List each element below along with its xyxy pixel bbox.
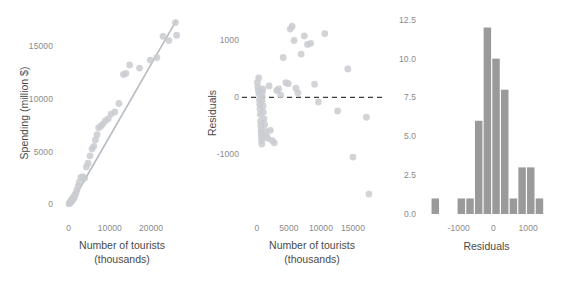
histogram-bar — [492, 59, 499, 214]
data-point — [277, 92, 284, 99]
histogram-bar — [475, 121, 482, 214]
data-points-residuals — [254, 23, 372, 198]
x-axis-title-spending: Number of tourists — [79, 239, 165, 251]
x-tick-label-0: 0 — [255, 223, 260, 233]
y-tick-label-0: 0 — [48, 199, 53, 209]
data-point — [321, 30, 328, 37]
data-point — [85, 160, 92, 167]
data-point — [136, 65, 143, 72]
data-point — [298, 51, 305, 58]
x-tick-label-3: 15000 — [341, 223, 365, 233]
data-point — [311, 81, 318, 88]
x-tick-label-0: 0 — [66, 223, 71, 233]
x-tick-label-2: 20000 — [139, 223, 163, 233]
y-tick-label-2: 5.0 — [404, 131, 416, 141]
data-point — [267, 127, 274, 134]
y-tick-label-1: 0 — [234, 92, 239, 102]
data-point — [280, 54, 287, 61]
histogram-bar — [510, 198, 517, 214]
data-point — [315, 99, 322, 106]
y-tick-label-3: 15000 — [29, 41, 53, 51]
data-point — [81, 175, 88, 182]
y-tick-label-2: 1000 — [220, 35, 239, 45]
y-tick-label-5: 12.5 — [399, 15, 416, 25]
x-tick-label-1: 5000 — [279, 223, 298, 233]
panel-residual-scatter: 050001000015000-100001000 Number of tour… — [190, 0, 390, 282]
y-tick-label-1: 2.5 — [404, 170, 416, 180]
data-point — [260, 109, 267, 116]
data-point — [289, 23, 296, 30]
histogram-bars — [432, 28, 544, 214]
data-point — [266, 83, 273, 90]
data-point — [350, 154, 357, 161]
y-axis-title-residuals: Residuals — [206, 90, 218, 136]
y-axis-title-spending: Spending (million $) — [18, 67, 30, 160]
data-point — [301, 32, 308, 39]
histogram-bar — [432, 198, 439, 214]
data-point — [291, 37, 298, 44]
histogram-bar — [527, 167, 534, 214]
y-tick-label-2: 10000 — [29, 94, 53, 104]
figure-panel-group: 01000020000050001000015000 Number of tou… — [0, 0, 561, 282]
data-point — [259, 85, 266, 92]
y-tick-label-4: 10.0 — [399, 54, 416, 64]
x-axis-subtitle-spending: (thousands) — [94, 253, 149, 265]
y-tick-label-0: -1000 — [217, 149, 239, 159]
data-point — [116, 100, 123, 107]
data-point — [366, 191, 373, 198]
data-point — [344, 66, 351, 73]
data-point — [160, 33, 167, 40]
data-point — [260, 102, 267, 109]
panel-spending-scatter: 01000020000050001000015000 Number of tou… — [0, 0, 190, 282]
histogram-bar — [501, 90, 508, 214]
data-point — [147, 57, 154, 64]
panel-residual-histogram: -1000010000.02.55.07.510.012.5 Residuals — [390, 0, 561, 282]
x-tick-label-2: 10000 — [309, 223, 333, 233]
x-tick-label-1: 0 — [491, 223, 496, 233]
data-point — [334, 108, 341, 115]
data-point — [307, 40, 314, 47]
y-tick-label-3: 7.5 — [404, 92, 416, 102]
data-point — [285, 80, 292, 87]
x-axis-title-histogram: Residuals — [463, 240, 509, 252]
data-point — [261, 121, 268, 128]
data-point — [172, 19, 179, 26]
data-point — [94, 131, 101, 138]
x-tick-label-2: 1000 — [519, 223, 538, 233]
x-axis-subtitle-residuals: (thousands) — [284, 253, 339, 265]
histogram-bar — [458, 198, 465, 214]
data-point — [90, 143, 97, 150]
histogram-bar — [466, 198, 473, 214]
x-tick-label-1: 10000 — [98, 223, 122, 233]
data-point — [173, 32, 180, 39]
data-point — [271, 139, 278, 146]
x-tick-label-0: -1000 — [448, 223, 470, 233]
data-point — [258, 141, 265, 148]
histogram-bar — [518, 167, 525, 214]
data-point — [363, 114, 370, 121]
x-axis-title-residuals: Number of tourists — [269, 239, 355, 251]
data-point — [255, 75, 262, 82]
histogram-bar — [536, 198, 543, 214]
data-point — [87, 152, 94, 159]
data-point — [153, 54, 160, 61]
y-tick-label-0: 0.0 — [404, 209, 416, 219]
data-point — [275, 85, 282, 92]
y-tick-label-1: 5000 — [34, 147, 53, 157]
data-point — [111, 109, 118, 116]
data-point — [126, 61, 133, 68]
histogram-bar — [484, 28, 491, 214]
data-point — [123, 70, 130, 77]
data-point — [295, 89, 302, 96]
data-point — [165, 37, 172, 44]
